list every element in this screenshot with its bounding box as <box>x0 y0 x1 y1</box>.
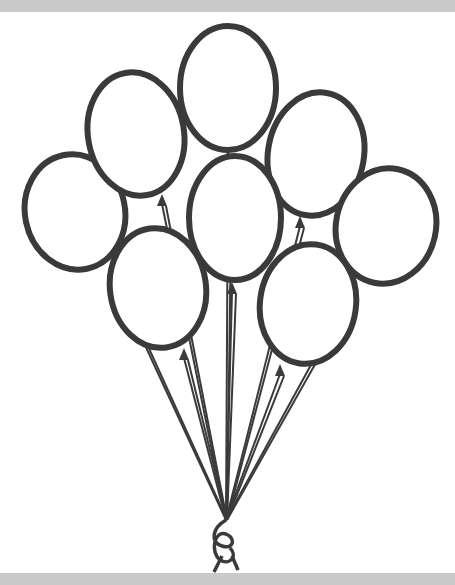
balloon-bunch-illustration <box>0 0 455 585</box>
bottom-gray-band <box>0 573 455 585</box>
balloon-tie-icon <box>295 216 305 228</box>
balloon-tie-icon <box>179 348 189 360</box>
balloon-string <box>226 374 280 520</box>
balloon-top-center <box>180 26 276 162</box>
balloon-tie-icon <box>157 194 167 206</box>
string-knot <box>214 520 238 572</box>
balloon-string <box>227 376 284 520</box>
balloon-tie-icon <box>275 364 285 376</box>
balloon-tie-icon <box>227 282 237 294</box>
balloon-string <box>188 360 227 520</box>
